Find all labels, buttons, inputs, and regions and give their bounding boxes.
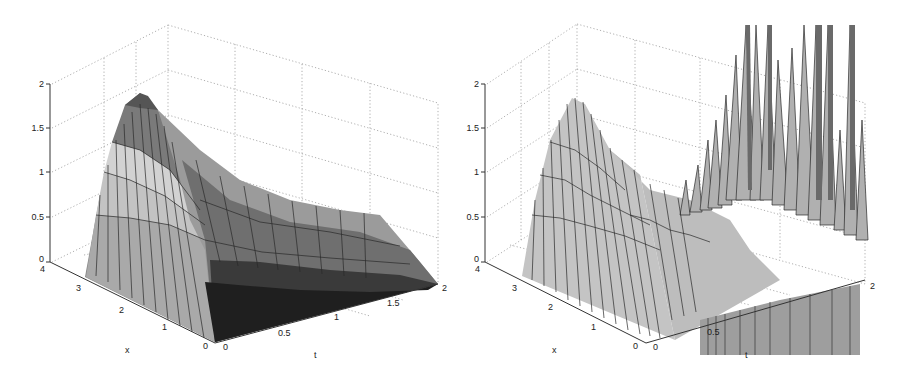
left-x-label: x [125, 345, 130, 355]
left-plot-canvas: 2 1.5 1 0.5 0 [0, 0, 450, 375]
right-t-tick: 2 [870, 281, 875, 291]
left-x-tick: 2 [119, 305, 124, 315]
right-surface [522, 25, 868, 355]
right-z-tick: 0.5 [466, 212, 479, 222]
right-x-tick: 3 [512, 283, 517, 293]
right-t-tick: 0.5 [707, 327, 720, 337]
left-z-tick: 0.5 [31, 212, 44, 222]
left-surface-plot: 2 1.5 1 0.5 0 [0, 0, 450, 375]
left-t-tick: 0 [223, 342, 228, 352]
right-z-tick: 1 [474, 167, 479, 177]
left-z-tick: 0 [39, 254, 44, 264]
left-x-tick: 1 [162, 322, 167, 332]
left-z-tick: 2 [39, 79, 44, 89]
left-x-tick: 3 [76, 283, 81, 293]
left-z-tick: 1.5 [31, 123, 44, 133]
right-t-tick: 0 [653, 342, 658, 352]
right-z-tick: 2 [474, 79, 479, 89]
left-t-tick: 2 [442, 283, 447, 293]
right-plot-canvas: 2 1.5 1 0.5 0 [450, 0, 903, 375]
right-x-tick: 1 [591, 322, 596, 332]
right-x-tick: 4 [475, 264, 480, 274]
right-x-label: x [552, 345, 557, 355]
left-x-tick: 0 [203, 341, 208, 351]
left-t-tick: 0.5 [278, 328, 291, 338]
right-z-tick: 0 [474, 254, 479, 264]
right-z-tick: 1.5 [466, 123, 479, 133]
right-z-axis: 2 1.5 1 0.5 0 [466, 79, 485, 264]
left-t-label: t [314, 350, 317, 360]
left-t-tick: 1 [334, 312, 339, 322]
left-t-tick: 1.5 [387, 298, 400, 308]
right-x-tick: 0 [633, 341, 638, 351]
left-x-tick: 4 [40, 264, 45, 274]
left-z-axis: 2 1.5 1 0.5 0 [31, 79, 50, 264]
right-surface-plot: 2 1.5 1 0.5 0 [450, 0, 903, 375]
left-z-tick: 1 [39, 167, 44, 177]
right-x-tick: 2 [548, 302, 553, 312]
